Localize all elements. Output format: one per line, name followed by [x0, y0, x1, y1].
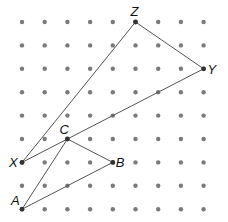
grid-dot	[156, 184, 160, 188]
label-z: Z	[130, 4, 140, 19]
grid-dot	[43, 90, 47, 94]
grid-dot	[179, 113, 183, 117]
grid-dot	[201, 113, 205, 117]
grid-dot	[133, 67, 137, 71]
point-a	[20, 207, 25, 212]
point-c	[65, 137, 70, 142]
grid-dot	[201, 43, 205, 47]
grid-dot	[156, 137, 160, 141]
grid-dot	[201, 160, 205, 164]
grid-dot	[43, 43, 47, 47]
grid-dot	[133, 43, 137, 47]
grid-dot	[88, 90, 92, 94]
grid-dot	[43, 67, 47, 71]
label-b: B	[116, 155, 125, 170]
grid-dot	[156, 113, 160, 117]
grid-dot	[65, 207, 69, 211]
grid-dot	[43, 207, 47, 211]
grid-dot	[111, 207, 115, 211]
grid-dot	[111, 20, 115, 24]
label-a: A	[10, 193, 20, 208]
grid-dot	[156, 207, 160, 211]
grid-dot	[111, 90, 115, 94]
grid-dot	[20, 113, 24, 117]
grid-dot	[201, 137, 205, 141]
grid-dot	[88, 160, 92, 164]
grid-dot	[88, 137, 92, 141]
grid-dot	[156, 67, 160, 71]
grid-dot	[111, 43, 115, 47]
grid-dot	[43, 184, 47, 188]
grid-dot	[201, 184, 205, 188]
grid-dot	[133, 207, 137, 211]
grid-dot	[179, 207, 183, 211]
triangle-abc	[22, 139, 113, 209]
grid-dot	[65, 43, 69, 47]
grid-dot	[88, 67, 92, 71]
point-y	[201, 66, 206, 71]
grid-dot	[133, 160, 137, 164]
label-x: X	[8, 155, 19, 170]
grid-dot	[156, 43, 160, 47]
grid-dot	[43, 160, 47, 164]
grid-dot	[65, 20, 69, 24]
grid-dot	[65, 90, 69, 94]
grid-dot	[179, 43, 183, 47]
grid-dot	[20, 90, 24, 94]
grid-dot	[65, 160, 69, 164]
point-labels: ZYXCBA	[8, 4, 218, 208]
grid-dot	[88, 20, 92, 24]
grid-dot	[133, 184, 137, 188]
grid-dot	[156, 20, 160, 24]
grid-dot	[156, 160, 160, 164]
point-x	[20, 160, 25, 165]
grid-dot	[20, 67, 24, 71]
dot-grid-diagram: ZYXCBA	[0, 0, 228, 222]
grid-dot	[88, 184, 92, 188]
grid-dot	[179, 184, 183, 188]
grid-dot	[20, 137, 24, 141]
grid-dot	[179, 90, 183, 94]
grid-dot	[201, 20, 205, 24]
label-y: Y	[208, 62, 218, 77]
grid-dot	[65, 113, 69, 117]
grid-dot	[201, 90, 205, 94]
grid-dot	[65, 67, 69, 71]
grid-dot	[43, 113, 47, 117]
label-c: C	[59, 122, 69, 137]
grid-dot	[20, 184, 24, 188]
grid-dot	[111, 137, 115, 141]
grid-dot	[179, 67, 183, 71]
grid-dot	[179, 160, 183, 164]
grid-dot	[133, 137, 137, 141]
grid-dot	[88, 43, 92, 47]
triangle-edges	[22, 22, 204, 209]
grid-dot	[43, 20, 47, 24]
grid-dot	[111, 67, 115, 71]
grid-dot	[179, 20, 183, 24]
grid-dot	[88, 113, 92, 117]
grid-dot	[179, 137, 183, 141]
grid-dot	[133, 90, 137, 94]
grid-dot	[111, 184, 115, 188]
grid-dot	[20, 20, 24, 24]
grid-dot	[133, 113, 137, 117]
grid-dot	[20, 43, 24, 47]
grid-dot	[201, 207, 205, 211]
point-z	[133, 20, 138, 25]
point-b	[110, 160, 115, 165]
grid-dot	[43, 137, 47, 141]
diagram-canvas: ZYXCBA	[0, 0, 228, 222]
grid-dot	[88, 207, 92, 211]
